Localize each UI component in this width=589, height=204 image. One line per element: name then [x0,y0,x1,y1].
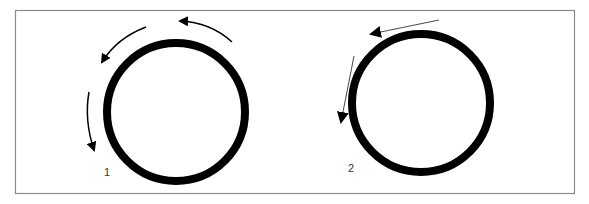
panel-2-label: 2 [348,162,354,174]
diagram-canvas: 1 2 [0,0,589,204]
circle-2 [352,34,490,172]
panel-1: 1 [87,21,245,181]
panel-1-label: 1 [104,166,110,178]
curved-arrow-left-icon [87,92,94,150]
panel-2: 2 [341,20,490,174]
curved-arrow-top-icon [180,21,232,42]
circle-1 [107,43,245,181]
